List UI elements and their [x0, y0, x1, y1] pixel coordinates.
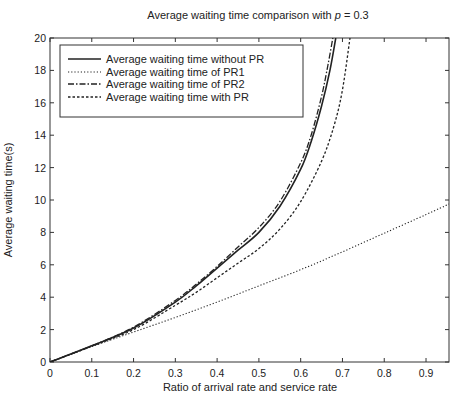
y-tick-label: 4	[40, 291, 46, 303]
y-tick-label: 8	[40, 226, 46, 238]
chart-title: Average waiting time comparison with p =…	[147, 9, 368, 21]
legend-label: Average waiting time without PR	[106, 53, 264, 65]
y-tick-label: 18	[34, 64, 46, 76]
x-tick-label: 0.6	[293, 367, 308, 379]
y-tick-label: 14	[34, 129, 46, 141]
x-tick-label: 0.1	[84, 367, 99, 379]
x-tick-label: 0.9	[419, 367, 434, 379]
chart-svg: Average waiting time comparison with p =…	[0, 0, 466, 407]
x-tick-label: 0	[47, 367, 53, 379]
chart-container: Average waiting time comparison with p =…	[0, 0, 466, 407]
x-tick-label: 0.5	[252, 367, 267, 379]
y-tick-label: 12	[34, 162, 46, 174]
x-axis-label: Ratio of arrival rate and service rate	[163, 381, 337, 393]
x-tick-label: 0.4	[210, 367, 225, 379]
y-tick-label: 20	[34, 32, 46, 44]
x-tick-label: 0.2	[126, 367, 141, 379]
y-tick-label: 16	[34, 97, 46, 109]
y-tick-label: 2	[40, 324, 46, 336]
x-tick-label: 0.8	[377, 367, 392, 379]
x-tick-label: 0.7	[335, 367, 350, 379]
y-tick-label: 0	[40, 356, 46, 368]
legend: Average waiting time without PRAverage w…	[60, 45, 303, 117]
legend-label: Average waiting time with PR	[106, 91, 249, 103]
legend-label: Average waiting time of PR2	[106, 78, 245, 90]
y-tick-label: 6	[40, 259, 46, 271]
plot-area: 00.10.20.30.40.50.60.70.80.9 02468101214…	[34, 32, 449, 379]
x-tick-label: 0.3	[168, 367, 183, 379]
y-tick-label: 10	[34, 194, 46, 206]
legend-label: Average waiting time of PR1	[106, 66, 245, 78]
y-axis-label: Average waiting time(s)	[2, 143, 14, 258]
